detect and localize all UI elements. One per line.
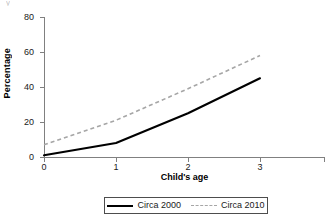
y-tick-label-0: 0 (29, 153, 34, 162)
y-axis-title: Percentage (2, 48, 14, 99)
series-plot (44, 17, 325, 158)
line-chart-figure: y Percentage 80 60 40 20 0 0 1 2 3 (0, 0, 334, 224)
y-tick-label-20: 20 (24, 118, 34, 127)
y-tick-label-60: 60 (24, 48, 34, 57)
y-tick-label-40: 40 (24, 83, 34, 92)
x-tick-label-2: 2 (185, 163, 190, 172)
x-tick-label-3: 3 (257, 163, 262, 172)
plot-area: 80 60 40 20 0 0 1 2 3 (44, 17, 325, 157)
x-tick-label-0: 0 (41, 163, 46, 172)
chart-legend: Circa 2000 Circa 2010 (104, 197, 268, 214)
series-line-circa-2000 (44, 78, 260, 155)
legend-entry-circa-2000[interactable]: Circa 2000 (107, 201, 181, 210)
clipped-top-text: y (6, 0, 46, 6)
legend-line-dashed-icon (191, 203, 217, 209)
x-tick-end (324, 158, 325, 162)
legend-entry-circa-2010[interactable]: Circa 2010 (191, 201, 265, 210)
legend-label-circa-2000: Circa 2000 (137, 201, 181, 210)
legend-line-solid-icon (107, 203, 133, 209)
x-tick-label-1: 1 (113, 163, 118, 172)
x-axis-title: Child's age (44, 172, 325, 182)
series-line-circa-2010 (44, 56, 260, 145)
legend-label-circa-2010: Circa 2010 (221, 201, 265, 210)
y-tick-label-80: 80 (24, 13, 34, 22)
